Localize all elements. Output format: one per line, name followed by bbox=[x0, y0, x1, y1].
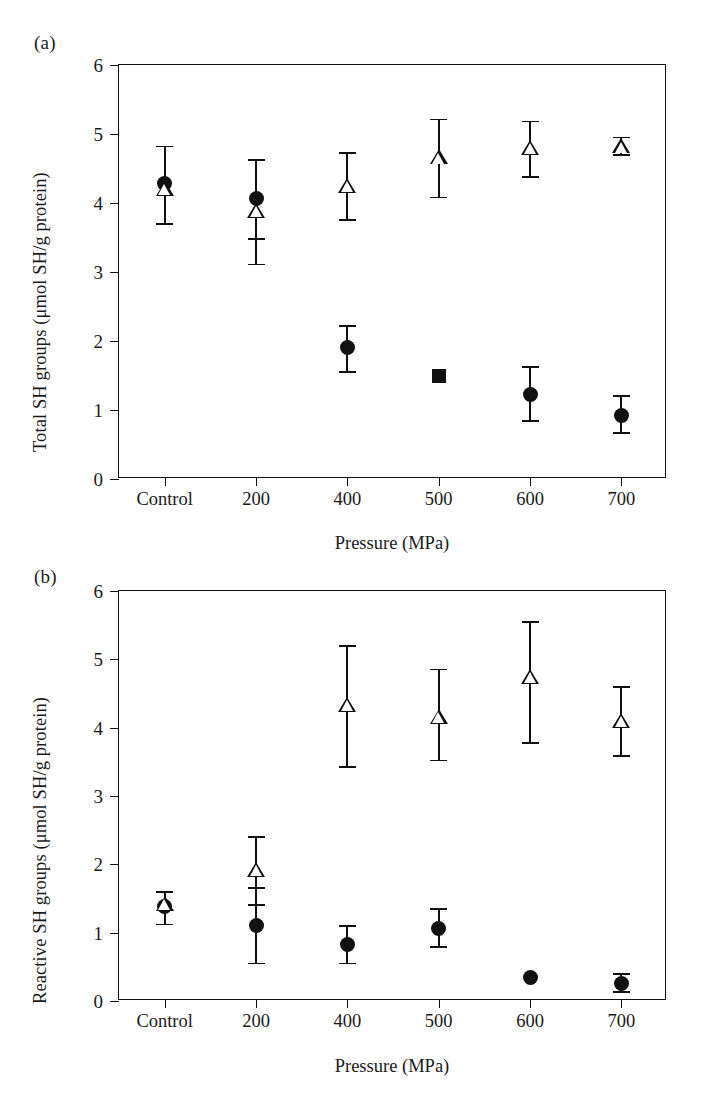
x-axis-tick bbox=[347, 999, 348, 1008]
x-axis-tick-label: 600 bbox=[516, 1012, 544, 1031]
marker-circle bbox=[614, 408, 629, 423]
y-axis-tick-label: 0 bbox=[94, 992, 104, 1011]
error-bar-cap bbox=[522, 366, 539, 368]
y-axis-tick: 3 bbox=[110, 272, 119, 273]
x-axis-tick bbox=[439, 999, 440, 1008]
error-bar-cap bbox=[248, 264, 265, 266]
x-axis-tick-label: 500 bbox=[425, 490, 453, 509]
panel-b-plot-area: 0123456Control200400500600700 bbox=[118, 590, 666, 1000]
y-axis-tick-label: 2 bbox=[94, 855, 104, 874]
y-axis-tick: 1 bbox=[110, 933, 119, 934]
marker-triangle bbox=[247, 862, 265, 877]
x-axis-tick-label: 700 bbox=[607, 490, 635, 509]
marker-triangle bbox=[612, 713, 630, 728]
error-bar-cap bbox=[339, 925, 356, 927]
panel-a: (a) Total SH groups (μmol SH/g protein) … bbox=[0, 0, 705, 560]
error-bar-cap bbox=[339, 963, 356, 965]
y-axis-tick: 0 bbox=[110, 479, 119, 480]
x-axis-tick-label: Control bbox=[136, 490, 193, 509]
error-bar-cap bbox=[430, 946, 447, 948]
x-axis-tick-label: 500 bbox=[425, 1012, 453, 1031]
error-bar-cap bbox=[248, 159, 265, 161]
y-axis-tick-label: 6 bbox=[94, 582, 104, 601]
x-axis-tick-label: Control bbox=[136, 1012, 193, 1031]
x-axis-tick bbox=[439, 477, 440, 486]
panel-a-tag: (a) bbox=[34, 32, 56, 54]
x-axis-tick bbox=[621, 477, 622, 486]
error-bar-cap bbox=[430, 197, 447, 199]
y-axis-tick: 2 bbox=[110, 864, 119, 865]
figure-sh-groups: (a) Total SH groups (μmol SH/g protein) … bbox=[0, 0, 705, 1105]
error-bar-cap bbox=[430, 908, 447, 910]
error-bar-cap bbox=[430, 119, 447, 121]
marker-circle bbox=[523, 970, 538, 985]
panel-a-plot-area: 0123456Control200400500600700 bbox=[118, 64, 666, 478]
marker-square bbox=[432, 369, 446, 383]
error-bar-cap bbox=[339, 325, 356, 327]
y-axis-tick-label: 0 bbox=[94, 470, 104, 489]
y-axis-tick-label: 4 bbox=[94, 719, 104, 738]
x-axis-tick-label: 400 bbox=[333, 490, 361, 509]
y-axis-tick: 3 bbox=[110, 796, 119, 797]
error-bar-cap bbox=[613, 395, 630, 397]
y-axis-tick-label: 5 bbox=[94, 650, 104, 669]
y-axis-tick: 6 bbox=[110, 65, 119, 66]
error-bar-cap bbox=[248, 904, 265, 906]
error-bar-cap bbox=[156, 223, 173, 225]
error-bar-cap bbox=[156, 924, 173, 926]
error-bar-cap bbox=[248, 963, 265, 965]
error-bar-cap bbox=[156, 146, 173, 148]
marker-triangle bbox=[338, 697, 356, 712]
error-bar-cap bbox=[522, 621, 539, 623]
y-axis-tick: 6 bbox=[110, 591, 119, 592]
y-axis-tick: 1 bbox=[110, 410, 119, 411]
marker-triangle bbox=[247, 203, 265, 218]
marker-circle bbox=[614, 976, 629, 991]
panel-a-y-axis-label: Total SH groups (μmol SH/g protein) bbox=[30, 92, 51, 452]
y-axis-tick-label: 6 bbox=[94, 56, 104, 75]
marker-circle bbox=[431, 921, 446, 936]
x-axis-tick-label: 200 bbox=[242, 490, 270, 509]
error-bar-cap bbox=[613, 755, 630, 757]
x-axis-tick bbox=[165, 477, 166, 486]
panel-b-tag: (b) bbox=[34, 566, 57, 588]
y-axis-tick: 5 bbox=[110, 659, 119, 660]
marker-triangle bbox=[612, 138, 630, 153]
marker-triangle bbox=[156, 181, 174, 196]
error-bar-cap bbox=[430, 669, 447, 671]
x-axis-tick bbox=[347, 477, 348, 486]
error-bar-cap bbox=[339, 152, 356, 154]
marker-circle bbox=[340, 340, 355, 355]
x-axis-tick bbox=[256, 999, 257, 1008]
x-axis-tick bbox=[256, 477, 257, 486]
panel-b-y-axis-label: Reactive SH groups (μmol SH/g protein) bbox=[30, 614, 51, 1004]
x-axis-tick-label: 400 bbox=[333, 1012, 361, 1031]
marker-triangle bbox=[338, 178, 356, 193]
y-axis-tick-label: 1 bbox=[94, 924, 104, 943]
error-bar-cap bbox=[522, 420, 539, 422]
error-bar-cap bbox=[248, 836, 265, 838]
y-axis-tick-label: 2 bbox=[94, 332, 104, 351]
error-bar-cap bbox=[339, 371, 356, 373]
error-bar-cap bbox=[339, 219, 356, 221]
x-axis-tick bbox=[530, 999, 531, 1008]
error-bar-cap bbox=[613, 686, 630, 688]
y-axis-tick: 2 bbox=[110, 341, 119, 342]
error-bar-cap bbox=[156, 891, 173, 893]
y-axis-tick: 4 bbox=[110, 728, 119, 729]
error-bar-cap bbox=[339, 645, 356, 647]
y-axis-tick: 5 bbox=[110, 134, 119, 135]
y-axis-tick-label: 3 bbox=[94, 787, 104, 806]
error-bar-cap bbox=[613, 154, 630, 156]
y-axis-tick: 4 bbox=[110, 203, 119, 204]
marker-triangle bbox=[430, 149, 448, 164]
marker-circle bbox=[340, 937, 355, 952]
x-axis-tick bbox=[530, 477, 531, 486]
marker-triangle bbox=[430, 709, 448, 724]
y-axis-tick-label: 1 bbox=[94, 401, 104, 420]
marker-triangle bbox=[156, 896, 174, 911]
error-bar-cap bbox=[430, 760, 447, 762]
panel-b-x-axis-label: Pressure (MPa) bbox=[118, 1056, 666, 1077]
x-axis-tick-label: 600 bbox=[516, 490, 544, 509]
y-axis-tick-label: 5 bbox=[94, 125, 104, 144]
